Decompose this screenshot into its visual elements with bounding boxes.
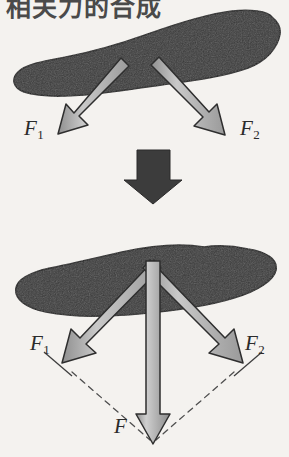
label-f1-top-subscript: 1 [37,127,44,142]
label-f2-top-symbol: F [240,116,253,140]
label-f2-top: F2 [240,118,260,141]
label-f2-bottom-subscript: 2 [258,342,265,357]
figure-heading: 相关力的合成 [6,0,162,23]
label-f1-bottom-symbol: F [30,331,43,355]
label-resultant-force: F [114,416,127,439]
label-f1-top: F1 [24,118,44,141]
label-f1-bottom: F1 [30,333,50,356]
label-f2-top-subscript: 2 [253,127,260,142]
label-f2-bottom: F2 [245,333,265,356]
label-f2-bottom-symbol: F [245,331,258,355]
label-f1-top-symbol: F [24,116,37,140]
label-f1-bottom-subscript: 1 [43,342,50,357]
label-resultant-symbol: F [114,414,127,438]
force-composition-figure: 相关力的合成 F1 F2 F1 F2 F [0,0,289,457]
figure-canvas [0,0,289,457]
